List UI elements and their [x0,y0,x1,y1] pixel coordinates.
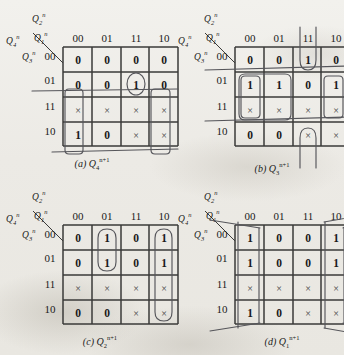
axis-label-q2n: Q2n [204,189,217,204]
kmap-a-col-header-0: 00 [73,32,85,44]
kmap-d-cell-r1c1: 0 [276,257,282,269]
kmap-b-cell-r3c1: 0 [276,129,282,141]
kmap-a-cell-r1c1: 0 [104,79,110,91]
kmap-c-cell-r0c2: 0 [133,232,139,244]
kmap-b-cell-r2c1: × [276,105,282,116]
kmap-b-cell-r3c0: 0 [247,129,253,141]
kmap-a-row-header-2: 11 [45,100,56,112]
kmap-a-cell-r2c3: × [161,105,167,116]
kmap-b-cell-r0c3: 0 [333,54,339,66]
kmap-c-cell-r1c2: 0 [133,257,139,269]
kmap-c-cell-r0c3: 1 [161,232,167,244]
axis-label-q3n: Q3n [194,227,207,242]
kmap-a-cell-r0c3: 0 [161,54,167,66]
kmap-a-cell-r3c2: × [133,130,139,141]
axis-label-q1n: Q1n [34,208,47,223]
kmap-c-row-header-2: 11 [45,278,56,290]
kmap-a-cell-r0c1: 0 [104,54,110,66]
kmap-b-cell-r1c0: 1 [247,79,253,91]
kmap-d-col-header-2: 11 [303,210,314,222]
axis-label-q2n: Q2n [204,11,217,26]
axis-label-q4n: Q4n [6,33,19,48]
kmap-c-cell-r2c0: × [75,283,81,294]
kmap-a-cell-r0c2: 0 [133,54,139,66]
kmap-c-cell-r2c1: × [104,283,110,294]
kmap-b-cell-r2c0: × [247,105,253,116]
kmap-d-row-header-3: 10 [217,303,229,315]
kmap-a-cell-r2c1: × [104,105,110,116]
kmap-a-cell-r3c0: 1 [75,129,81,141]
kmap-a-cell-r0c0: 0 [75,54,81,66]
axis-label-q3n: Q3n [22,227,35,242]
kmap-b-cell-r0c0: 0 [247,54,253,66]
kmap-c-cell-r3c1: 0 [104,307,110,319]
kmap-a-cell-r2c0: × [75,105,81,116]
kmap-b-cell-r2c2: × [305,105,311,116]
kmap-c-caption: (c) Q2n+1 [83,334,117,349]
kmap-b-col-header-1: 01 [274,32,285,44]
kmap-c-col-header-0: 00 [73,210,85,222]
axis-label-q2n: Q2n [32,189,45,204]
kmap-d-cell-r3c1: 0 [276,307,282,319]
kmap-d-cell-r2c2: × [305,283,311,294]
kmap-c-cell-r1c1: 1 [104,257,110,269]
kmap-a-row-header-3: 10 [45,125,57,137]
axis-label-q3n: Q3n [194,49,207,64]
kmap-c-row-header-1: 01 [45,252,56,264]
kmap-d-cell-r0c1: 0 [276,232,282,244]
kmap-c-cell-r0c0: 0 [75,232,81,244]
kmap-b-row-header-2: 11 [217,100,228,112]
kmap-b-caption: (b) Q3n+1 [255,161,290,176]
kmap-b-cell-r3c3: × [333,130,339,141]
kmap-b-cell-r1c1: 1 [276,79,282,91]
kmap-a-cell-r3c3: × [161,130,167,141]
kmap-d-row-header-2: 11 [217,278,228,290]
kmap-a-col-header-1: 01 [102,32,113,44]
kmap-d: Q4n Q2n Q1n Q3n 00 01 11 10 00 01 11 10 [172,178,344,355]
kmap-b-cell-r1c3: 1 [333,79,339,91]
kmap-d-row-header-1: 01 [217,252,228,264]
axis-label-q1n: Q1n [206,30,219,45]
kmap-d-cell-r3c2: × [305,308,311,319]
kmap-d-col-header-1: 01 [274,210,285,222]
kmap-c: Q4n Q2n Q1n Q3n 00 01 11 10 00 01 11 10 [0,178,172,355]
kmap-c-row-header-0: 00 [45,228,57,240]
kmap-c-cell-r1c3: 1 [161,257,167,269]
kmap-b: Q4n Q2n Q1n Q3n 00 01 11 10 00 01 11 10 [172,0,344,178]
kmap-a: Q4n Q2n Q1n Q3n 00 01 11 10 00 01 11 10 [0,0,172,178]
kmap-d-cell-r0c3: 1 [333,232,339,244]
kmap-c-col-header-3: 10 [159,210,171,222]
axis-label-q1n: Q1n [34,30,47,45]
kmap-b-col-header-2: 11 [303,32,314,44]
karnaugh-map-figure: Q4n Q2n Q1n Q3n 00 01 11 10 00 01 11 10 [0,0,344,355]
kmap-a-cell-r1c3: 0 [161,79,167,91]
kmap-a-col-header-2: 11 [131,32,142,44]
kmap-d-cell-r1c3: 1 [333,257,339,269]
kmap-c-cell-r2c3: × [161,283,167,294]
axis-label-q3n: Q3n [22,49,35,64]
kmap-c-cell-r3c3: × [161,308,167,319]
kmap-d-cell-r2c3: × [333,283,339,294]
kmap-d-cell-r2c0: × [247,283,253,294]
kmap-d-cell-r1c0: 1 [247,257,253,269]
axis-label-q4n: Q4n [178,33,191,48]
kmap-d-caption: (d) Q1n+1 [265,334,300,349]
kmap-d-cell-r2c1: × [276,283,282,294]
kmap-d-col-header-0: 00 [245,210,257,222]
kmap-d-cell-r3c3: × [333,308,339,319]
kmap-d-cell-r3c0: 1 [247,307,253,319]
kmap-c-col-header-1: 01 [102,210,113,222]
kmap-a-cell-r1c0: 0 [75,79,81,91]
kmap-a-col-header-3: 10 [159,32,171,44]
kmap-b-cell-r0c2: 1 [305,54,311,66]
kmap-c-col-header-2: 11 [131,210,142,222]
kmap-b-cell-r3c2: × [305,130,311,141]
kmap-a-row-header-1: 01 [45,74,56,86]
kmap-a-cell-r1c2: 1 [133,79,139,91]
kmap-b-row-header-1: 01 [217,74,228,86]
kmap-b-row-header-3: 10 [217,125,229,137]
kmap-b-cell-r0c1: 0 [276,54,282,66]
kmap-c-cell-r0c1: 1 [104,232,110,244]
kmap-d-cell-r0c2: 0 [305,232,311,244]
kmap-a-cell-r2c2: × [133,105,139,116]
